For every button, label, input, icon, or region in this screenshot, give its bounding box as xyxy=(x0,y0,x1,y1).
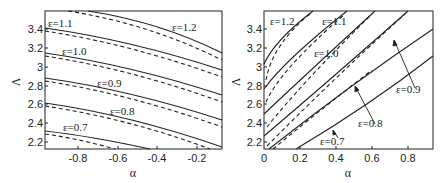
right-ylabel: Λ xyxy=(229,77,243,86)
left-label-eps-1.0: ε=1.0 xyxy=(62,45,87,57)
left-xtick: -0.8 xyxy=(69,152,88,164)
right-ytick: 3 xyxy=(256,61,262,73)
right-xlabel: α xyxy=(345,166,352,180)
left-ytick: 2.8 xyxy=(28,80,43,92)
right-xtick: 0 xyxy=(261,152,267,164)
right-curves xyxy=(264,11,433,149)
left-label-eps-1.1: ε=1.1 xyxy=(48,17,73,29)
left-ytick: 3.4 xyxy=(28,23,43,35)
right-label-eps-0.8: ε=0.8 xyxy=(358,117,383,129)
right-ytick: 2.8 xyxy=(247,80,262,92)
right-label-eps-0.9: ε=0.9 xyxy=(396,83,421,95)
right-panel: 3.4 3.2 3 2.8 2.6 2.4 2.2 0 0.2 0.4 0.6 … xyxy=(229,11,433,180)
left-label-eps-0.9: ε=0.9 xyxy=(97,77,122,89)
left-xtick: -0.6 xyxy=(109,152,128,164)
left-xtick: -0.2 xyxy=(188,152,207,164)
right-xtick: 0.2 xyxy=(292,152,307,164)
right-ytick: 3.2 xyxy=(247,42,262,54)
left-ytick: 2.4 xyxy=(28,117,43,129)
right-xtick: 0.8 xyxy=(400,152,415,164)
right-xtick: 0.4 xyxy=(328,152,343,164)
left-label-eps-0.7: ε=0.7 xyxy=(63,121,88,133)
left-xtick: -0.4 xyxy=(148,152,167,164)
left-ytick: 3 xyxy=(37,61,43,73)
arrow-eps-0.9 xyxy=(394,40,415,88)
left-ytick: 3.2 xyxy=(28,42,43,54)
left-panel: 3.4 3.2 3 2.8 2.6 2.4 2.2 -0.8 -0.6 -0.4… xyxy=(9,11,222,180)
left-label-eps-0.8: ε=0.8 xyxy=(110,105,135,117)
left-ytick: 2.2 xyxy=(28,136,43,148)
right-label-eps-1.1: ε=1.1 xyxy=(322,15,347,27)
left-ylabel: Λ xyxy=(9,77,23,86)
right-ytick: 2.2 xyxy=(247,136,262,148)
right-label-eps-1.2: ε=1.2 xyxy=(270,15,295,27)
right-ytick: 2.4 xyxy=(247,117,262,129)
right-xtick: 0.6 xyxy=(364,152,379,164)
left-xlabel: α xyxy=(130,166,137,180)
right-label-eps-0.7: ε=0.7 xyxy=(320,135,345,147)
figure: 3.4 3.2 3 2.8 2.6 2.4 2.2 -0.8 -0.6 -0.4… xyxy=(0,0,447,183)
right-ytick: 2.6 xyxy=(247,98,262,110)
left-ytick: 2.6 xyxy=(28,98,43,110)
right-label-eps-1.0: ε=1.0 xyxy=(314,47,339,59)
left-label-eps-1.2: ε=1.2 xyxy=(172,21,197,33)
right-ytick: 3.4 xyxy=(247,23,262,35)
